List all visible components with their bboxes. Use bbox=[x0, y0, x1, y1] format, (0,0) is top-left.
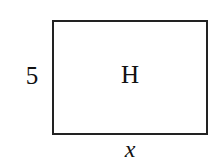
rectangle-height-label: 5 bbox=[16, 61, 48, 91]
rectangle-interior-label: H bbox=[52, 60, 208, 90]
rectangle-width-label: x bbox=[52, 136, 208, 162]
geometry-figure: 5 H x bbox=[0, 0, 213, 164]
